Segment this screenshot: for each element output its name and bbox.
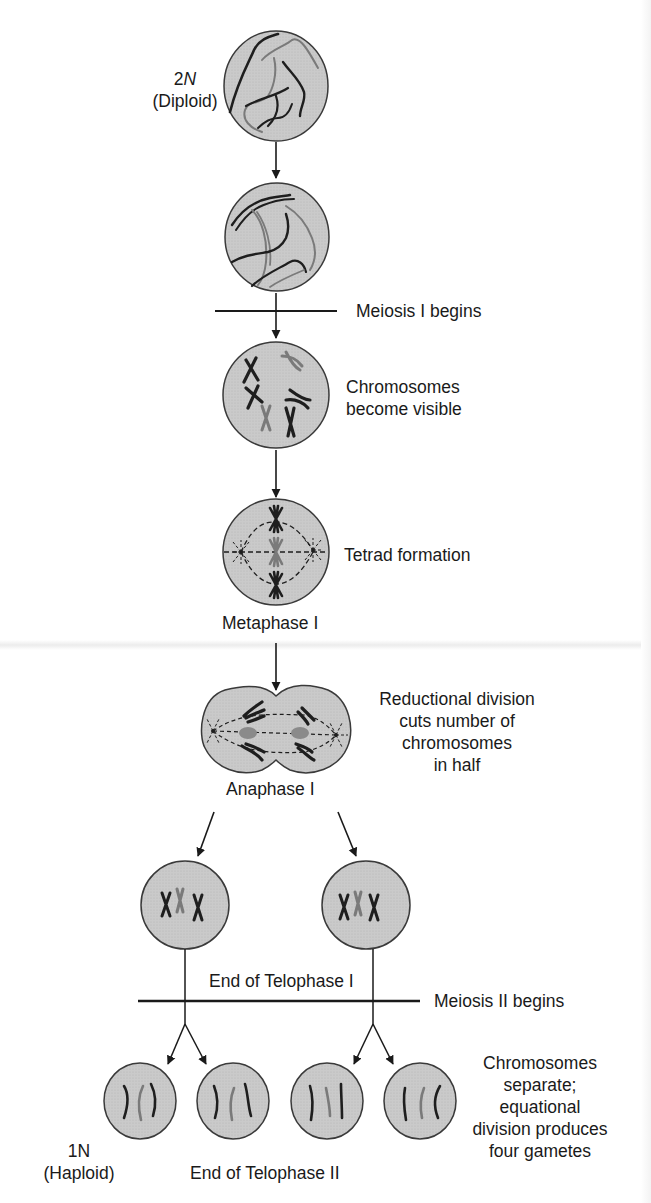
telophase-ii-caption: End of Telophase II <box>190 1162 340 1184</box>
meiosis-diagram <box>0 0 651 1203</box>
meiosis-i-label: Meiosis I begins <box>356 300 481 322</box>
gametes-note: Chromosomes separate; equational divisio… <box>455 1052 625 1162</box>
metaphase-cell <box>223 499 329 605</box>
haploid-label: 1N (Haploid) <box>34 1140 124 1184</box>
gamete-cell-3 <box>291 1063 363 1139</box>
arrow-left <box>198 812 214 856</box>
gamete-cell-1 <box>104 1063 176 1139</box>
prophase-label: Chromosomes become visible <box>346 376 462 420</box>
arrow-right <box>338 812 356 856</box>
prophase-cell <box>223 342 329 448</box>
gamete-cell-4 <box>384 1063 456 1139</box>
telophase-i-cell-right <box>322 861 410 949</box>
anaphase-caption: Anaphase I <box>226 778 315 800</box>
telophase-i-caption: End of Telophase I <box>209 970 354 992</box>
telophase-i-cell-left <box>141 861 229 949</box>
meiosis-ii-label: Meiosis II begins <box>434 990 564 1012</box>
metaphase-caption: Metaphase I <box>222 612 318 634</box>
gamete-cell-2 <box>197 1063 269 1139</box>
replicated-cell <box>225 183 329 291</box>
tetrad-label: Tetrad formation <box>344 544 470 566</box>
diploid-label: 2N (Diploid) <box>150 68 220 112</box>
anaphase-cell <box>202 685 351 772</box>
reductional-division-label: Reductional division cuts number of chro… <box>362 688 552 776</box>
diploid-cell <box>224 31 328 141</box>
